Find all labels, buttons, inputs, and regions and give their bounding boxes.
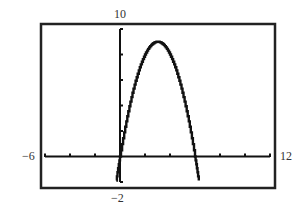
axis-ticks bbox=[45, 29, 270, 182]
screen-frame bbox=[41, 24, 275, 188]
calculator-graph-screen bbox=[0, 0, 295, 211]
x-max-label: 12 bbox=[280, 150, 292, 162]
y-min-label: −2 bbox=[111, 192, 124, 204]
y-max-label: 10 bbox=[114, 8, 126, 20]
parabola-curve bbox=[116, 42, 199, 181]
axes bbox=[45, 29, 270, 182]
x-min-label: −6 bbox=[22, 150, 35, 162]
